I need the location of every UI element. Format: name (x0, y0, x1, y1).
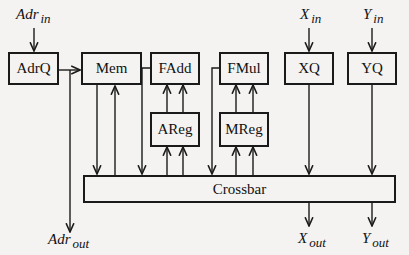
yq-block: YQ (347, 52, 397, 85)
crossbar-label: Crossbar (213, 181, 266, 198)
fmul-label: FMul (227, 60, 260, 77)
mem-label: Mem (96, 60, 128, 77)
y-out-label: Yout (362, 230, 389, 251)
arrow-fmul-to-crossbar (212, 68, 219, 174)
fmul-block: FMul (219, 52, 269, 85)
crossbar-block: Crossbar (83, 175, 396, 203)
adrq-label: AdrQ (16, 60, 50, 77)
mreg-label: MReg (225, 121, 263, 138)
mem-block: Mem (81, 52, 142, 85)
x-out-label: Xout (298, 230, 326, 251)
areg-block: AReg (150, 112, 200, 147)
connection-lines (0, 0, 409, 255)
y-in-label: Yin (363, 6, 383, 27)
datapath-diagram: AdrQ Mem FAdd AReg FMul MReg XQ YQ Cross… (0, 0, 409, 255)
areg-label: AReg (158, 121, 193, 138)
arrow-fadd-to-crossbar (142, 68, 150, 174)
yq-label: YQ (361, 60, 383, 77)
xq-label: XQ (298, 60, 320, 77)
fadd-label: FAdd (158, 60, 191, 77)
mreg-block: MReg (219, 112, 269, 147)
adr-out-label: Adrout (48, 231, 89, 252)
fadd-block: FAdd (150, 52, 200, 85)
x-in-label: Xin (300, 6, 321, 27)
adr-in-label: Adrin (16, 6, 51, 27)
adrq-block: AdrQ (8, 52, 59, 85)
xq-block: XQ (284, 52, 334, 85)
